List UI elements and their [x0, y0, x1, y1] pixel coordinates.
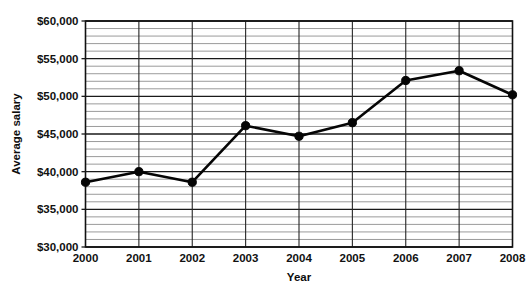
x-tick-label: 2001	[126, 252, 152, 264]
data-point-marker	[242, 122, 250, 130]
x-tick-label: 2002	[179, 252, 205, 264]
x-tick-label: 2005	[340, 252, 366, 264]
x-tick-label: 2004	[286, 252, 312, 264]
y-tick-label: $55,000	[37, 53, 79, 65]
x-tick-label: 2000	[73, 252, 99, 264]
y-tick-label: $45,000	[37, 128, 79, 140]
y-tick-label: $40,000	[37, 166, 79, 178]
y-tick-label: $50,000	[37, 90, 79, 102]
chart-canvas: $30,000$35,000$40,000$45,000$50,000$55,0…	[0, 0, 526, 291]
data-point-marker	[508, 91, 516, 99]
x-tick-label: 2006	[393, 252, 419, 264]
data-point-marker	[81, 178, 89, 186]
y-tick-label: $60,000	[37, 15, 79, 27]
x-tick-label: 2007	[446, 252, 472, 264]
data-point-marker	[402, 76, 410, 84]
data-point-marker	[135, 168, 143, 176]
data-point-marker	[188, 178, 196, 186]
salary-line-chart: $30,000$35,000$40,000$45,000$50,000$55,0…	[0, 0, 526, 291]
x-tick-label: 2003	[233, 252, 259, 264]
data-point-marker	[295, 132, 303, 140]
data-point-marker	[455, 67, 463, 75]
data-point-marker	[348, 119, 356, 127]
y-axis-title: Average salary	[10, 93, 22, 175]
x-axis-title: Year	[287, 271, 312, 283]
x-axis-tick-labels: 200020012002200320042005200620072008	[73, 252, 526, 264]
y-tick-label: $35,000	[37, 203, 79, 215]
x-tick-label: 2008	[500, 252, 526, 264]
